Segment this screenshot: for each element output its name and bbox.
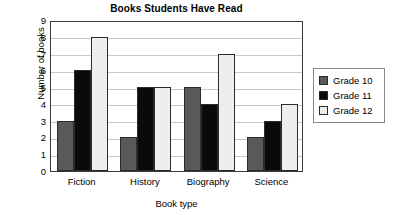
chart-title: Books Students Have Read [50, 3, 303, 14]
plot-area [50, 21, 303, 172]
y-tick-label: 5 [32, 83, 46, 93]
y-tick-label: 7 [32, 50, 46, 60]
legend-label: Grade 10 [333, 76, 373, 86]
bar [57, 121, 74, 171]
y-tick-label: 1 [32, 150, 46, 160]
legend-swatch-icon [319, 91, 328, 100]
x-tick-label: History [113, 176, 176, 187]
bar [91, 37, 108, 171]
x-tick-label: Biography [177, 176, 240, 187]
legend-swatch-icon [319, 106, 328, 115]
y-tick-label: 6 [32, 66, 46, 76]
x-tick-label: Science [240, 176, 303, 187]
bar [218, 54, 235, 171]
x-axis-tick-labels: FictionHistoryBiographyScience [50, 176, 303, 190]
bar [264, 121, 281, 171]
bar [281, 104, 298, 171]
bar [120, 137, 137, 171]
bar [137, 87, 154, 171]
chart-figure: Books Students Have Read Number of books… [0, 0, 394, 215]
y-tick-label: 0 [32, 167, 46, 177]
bar [74, 70, 91, 171]
x-axis-title: Book type [50, 198, 303, 209]
y-tick-label: 3 [32, 117, 46, 127]
chart-legend: Grade 10Grade 11Grade 12 [313, 68, 385, 123]
y-tick-label: 8 [32, 33, 46, 43]
bar [154, 87, 171, 171]
bar [201, 104, 218, 171]
x-tick-label: Fiction [50, 176, 113, 187]
legend-label: Grade 12 [333, 106, 373, 116]
legend-item[interactable]: Grade 11 [319, 88, 379, 103]
legend-item[interactable]: Grade 10 [319, 73, 379, 88]
legend-label: Grade 11 [333, 91, 372, 101]
y-tick-label: 9 [32, 16, 46, 26]
legend-swatch-icon [319, 76, 328, 85]
y-tick-label: 2 [32, 133, 46, 143]
y-tick-label: 4 [32, 100, 46, 110]
y-axis-tick-labels: 0123456789 [30, 21, 46, 172]
bars-layer [51, 22, 302, 171]
bar [184, 87, 201, 171]
bar [247, 137, 264, 171]
legend-item[interactable]: Grade 12 [319, 103, 379, 118]
